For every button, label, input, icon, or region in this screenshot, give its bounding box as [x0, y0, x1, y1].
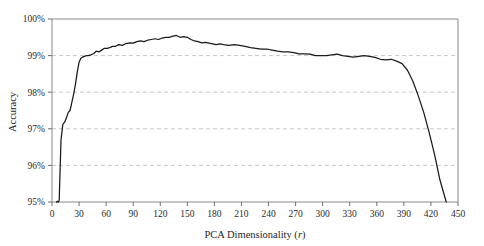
y-tick-label: 96%	[28, 161, 46, 171]
chart-figure: 95%96%97%98%99%100% 03060901201501802102…	[0, 0, 484, 246]
x-tick-label: 150	[180, 209, 195, 219]
y-tick-label: 99%	[28, 51, 46, 61]
x-tick-label: 360	[370, 209, 385, 219]
y-tick-label: 100%	[23, 14, 45, 24]
x-tick-label: 450	[451, 209, 466, 219]
y-axis-ticks	[48, 19, 52, 202]
x-tick-label: 30	[74, 209, 84, 219]
y-tick-label: 97%	[28, 124, 46, 134]
x-tick-label: 300	[316, 209, 331, 219]
x-tick-label: 120	[153, 209, 168, 219]
y-axis-title: Accuracy	[7, 91, 18, 132]
y-tick-label: 95%	[28, 197, 46, 207]
x-tick-label: 210	[234, 209, 249, 219]
y-tick-label: 98%	[28, 88, 46, 98]
x-tick-label: 270	[288, 209, 303, 219]
x-tick-label: 180	[207, 209, 222, 219]
x-tick-label: 390	[397, 209, 412, 219]
x-tick-label: 90	[128, 209, 138, 219]
x-tick-label: 330	[343, 209, 358, 219]
x-axis-tick-labels: 0306090120150180210240270300330360390420…	[50, 209, 466, 219]
x-tick-label: 240	[261, 209, 276, 219]
x-axis-ticks	[52, 202, 458, 206]
x-tick-label: 0	[50, 209, 55, 219]
accuracy-vs-pca-dimensionality-chart: 95%96%97%98%99%100% 03060901201501802102…	[0, 0, 484, 246]
y-axis-tick-labels: 95%96%97%98%99%100%	[23, 14, 45, 207]
x-tick-label: 420	[424, 209, 439, 219]
x-tick-label: 60	[101, 209, 111, 219]
x-axis-title: PCA Dimensionality (r)	[205, 229, 306, 241]
